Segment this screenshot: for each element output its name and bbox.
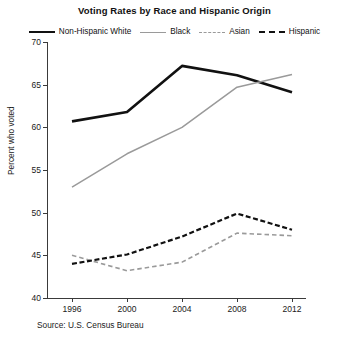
y-axis-tick (43, 213, 47, 214)
y-axis-tick (43, 127, 47, 128)
series-line (72, 74, 292, 187)
x-axis-tick (127, 298, 128, 302)
x-axis-tick-label: 2012 (283, 304, 302, 314)
legend-label: Asian (229, 28, 249, 36)
x-axis-tick (292, 298, 293, 302)
chart-title: Voting Rates by Race and Hispanic Origin (0, 5, 349, 16)
series-line (72, 233, 292, 271)
y-axis-tick-label: 55 (32, 165, 41, 175)
legend-swatch-icon (140, 32, 166, 33)
source-note: Source: U.S. Census Bureau (37, 320, 144, 330)
y-axis-tick (43, 85, 47, 86)
chart-container: Voting Rates by Race and Hispanic Origin… (0, 0, 349, 344)
y-axis-tick (43, 255, 47, 256)
legend-label: Hispanic (289, 28, 320, 36)
x-axis-tick-label: 2004 (173, 304, 192, 314)
y-axis-tick-label: 45 (32, 250, 41, 260)
legend-swatch-icon (199, 32, 225, 33)
series-line (72, 66, 292, 121)
x-axis-tick (237, 298, 238, 302)
legend-label: Black (170, 28, 190, 36)
series-line (72, 214, 292, 264)
y-axis-tick-label: 70 (32, 37, 41, 47)
x-axis-line (47, 298, 306, 299)
y-axis-tick-label: 40 (32, 293, 41, 303)
y-axis-tick (43, 170, 47, 171)
legend-item[interactable]: Hispanic (259, 28, 320, 36)
legend-swatch-icon (29, 31, 55, 33)
legend-swatch-icon (259, 31, 285, 33)
legend-item[interactable]: Non-Hispanic White (29, 28, 131, 36)
y-axis-title: Percent who voted (6, 106, 16, 175)
legend-item[interactable]: Asian (199, 28, 249, 36)
chart-legend: Non-Hispanic WhiteBlackAsianHispanic (0, 28, 349, 36)
x-axis-tick-label: 2000 (118, 304, 137, 314)
y-axis-tick-label: 50 (32, 208, 41, 218)
y-axis-tick (43, 298, 47, 299)
x-axis-tick-label: 2008 (228, 304, 247, 314)
y-axis-tick (43, 42, 47, 43)
x-axis-tick-label: 1996 (63, 304, 82, 314)
y-axis-tick-label: 60 (32, 122, 41, 132)
plot-area: 4045505560657019962000200420082012 (47, 42, 305, 298)
legend-label: Non-Hispanic White (59, 28, 131, 36)
y-axis-tick-label: 65 (32, 80, 41, 90)
series-layer (47, 42, 305, 298)
x-axis-tick (182, 298, 183, 302)
x-axis-tick (72, 298, 73, 302)
legend-item[interactable]: Black (140, 28, 190, 36)
